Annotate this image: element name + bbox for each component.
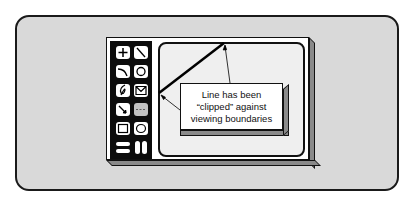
- crosshair-icon[interactable]: [116, 46, 130, 59]
- circle-icon[interactable]: [134, 65, 148, 78]
- callout-depth-bottom: [180, 130, 289, 136]
- tool-palette: [110, 41, 152, 159]
- monitor-depth-right: [309, 37, 315, 169]
- horizontal-bars-icon[interactable]: [116, 141, 130, 154]
- rectangle-icon[interactable]: [116, 122, 130, 135]
- monitor-depth-bottom: [106, 160, 321, 166]
- arrow-icon[interactable]: [116, 103, 130, 116]
- vertical-bars-icon[interactable]: [134, 141, 148, 154]
- dashed-line-icon[interactable]: [134, 103, 148, 116]
- callout-line-1: Line has been: [181, 89, 282, 101]
- callout-depth-right: [283, 84, 289, 136]
- callout-line-2: “clipped” against: [181, 101, 282, 113]
- callout-box: Line has been “clipped” against viewing …: [180, 83, 283, 130]
- arc-icon[interactable]: [116, 65, 130, 78]
- callout-line-3: viewing boundaries: [181, 113, 282, 125]
- ellipse-icon[interactable]: [134, 122, 148, 135]
- envelope-icon[interactable]: [134, 84, 148, 97]
- line-icon[interactable]: [134, 46, 148, 59]
- freehand-icon[interactable]: [116, 84, 130, 97]
